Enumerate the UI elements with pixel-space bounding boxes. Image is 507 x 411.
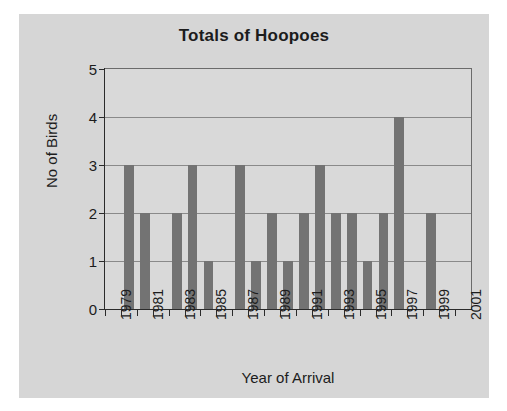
bar (204, 261, 214, 309)
y-tick-label: 0 (67, 301, 97, 318)
bar (235, 165, 245, 309)
bar (172, 213, 182, 309)
bar (315, 165, 325, 309)
bar (331, 213, 341, 309)
x-tick-mark (423, 309, 424, 316)
x-axis-title: Year of Arrival (105, 369, 471, 386)
x-tick-mark (185, 309, 186, 316)
y-tick-label: 2 (67, 205, 97, 222)
x-tick-mark (216, 309, 217, 316)
x-tick-mark (407, 309, 408, 316)
y-tick-label: 1 (67, 253, 97, 270)
x-tick-mark (121, 309, 122, 316)
bar (188, 165, 198, 309)
x-tick-mark (248, 309, 249, 316)
bar (267, 213, 277, 309)
bar (394, 117, 404, 309)
y-tick-label: 5 (67, 61, 97, 78)
x-tick-mark (200, 309, 201, 316)
x-tick-mark (105, 309, 106, 316)
y-tick-label: 3 (67, 157, 97, 174)
x-tick-mark (391, 309, 392, 316)
x-tick-mark (376, 309, 377, 316)
x-tick-mark (153, 309, 154, 316)
x-tick-mark (360, 309, 361, 316)
x-tick-mark (232, 309, 233, 316)
bar (140, 213, 150, 309)
plot-area: 012345 197919811983198519871989199119931… (105, 68, 472, 309)
x-tick-mark (328, 309, 329, 316)
x-tick-mark (280, 309, 281, 316)
y-axis-title: No of Birds (43, 114, 60, 188)
chart-figure: Totals of Hoopoes No of Birds 012345 197… (19, 14, 489, 398)
y-tick-label: 4 (67, 109, 97, 126)
bar (363, 261, 373, 309)
x-tick-mark (137, 309, 138, 316)
x-tick-mark (312, 309, 313, 316)
x-tick-mark (169, 309, 170, 316)
x-tick-mark (344, 309, 345, 316)
bar (124, 165, 134, 309)
x-tick-mark (439, 309, 440, 316)
x-tick-mark (296, 309, 297, 316)
bar (426, 213, 436, 309)
chart-title: Totals of Hoopoes (19, 26, 489, 46)
x-tick-label: 2001 (468, 289, 484, 320)
x-tick-mark (455, 309, 456, 316)
bar-series (105, 69, 471, 309)
bar (299, 213, 309, 309)
x-tick-mark (264, 309, 265, 316)
